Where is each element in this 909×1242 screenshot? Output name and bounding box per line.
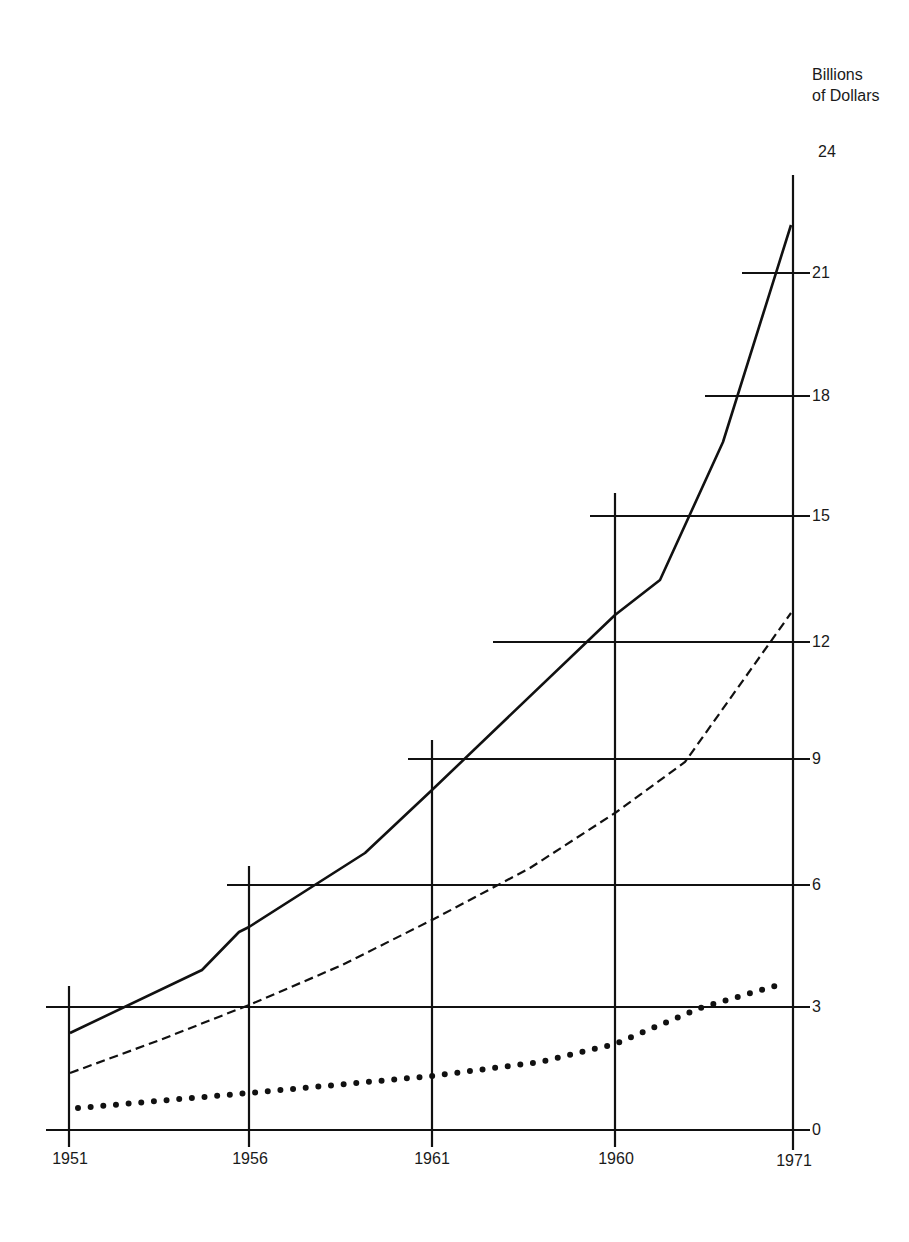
x-tick-1960: 1960 xyxy=(586,1150,646,1168)
y-tick-12: 12 xyxy=(812,633,830,651)
y-axis-title-line1: Billions xyxy=(812,64,880,85)
x-tick-1971: 1971 xyxy=(764,1152,824,1170)
y-axis-title-line2: of Dollars xyxy=(812,85,880,106)
x-tick-1956: 1956 xyxy=(220,1150,280,1168)
y-tick-9: 9 xyxy=(812,750,821,768)
y-tick-0: 0 xyxy=(812,1121,821,1139)
y-tick-21: 21 xyxy=(812,264,830,282)
gridlines-vertical xyxy=(69,175,793,1150)
y-tick-15: 15 xyxy=(812,507,830,525)
x-tick-1961: 1961 xyxy=(402,1150,462,1168)
series-solid xyxy=(70,225,791,1033)
y-tick-3: 3 xyxy=(812,998,821,1016)
gridlines-horizontal xyxy=(46,273,810,1130)
x-tick-1951: 1951 xyxy=(40,1150,100,1168)
y-tick-24: 24 xyxy=(818,143,836,161)
y-tick-6: 6 xyxy=(812,876,821,894)
y-tick-18: 18 xyxy=(812,387,830,405)
y-axis-title: Billions of Dollars xyxy=(812,64,880,106)
series-dashed xyxy=(70,613,791,1073)
line-chart xyxy=(0,0,909,1242)
